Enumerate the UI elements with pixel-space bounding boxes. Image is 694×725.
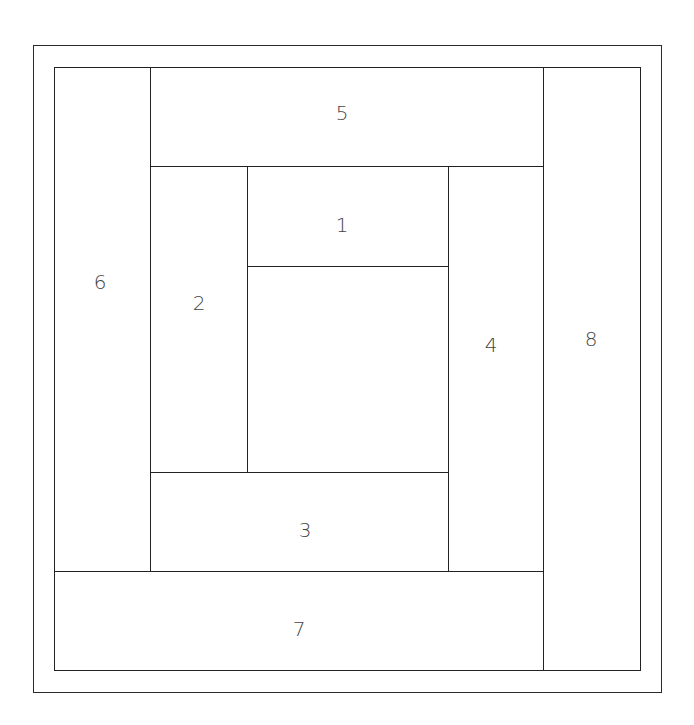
block-label-4: 4 — [485, 335, 498, 355]
block-label-7: 7 — [293, 619, 306, 639]
block-label-6: 6 — [94, 272, 107, 292]
block-2 — [150, 166, 248, 474]
quilt-block-diagram: 12345678 — [0, 0, 694, 725]
block-8 — [543, 67, 641, 671]
block-label-8: 8 — [585, 329, 598, 349]
block-label-5: 5 — [336, 103, 349, 123]
block-4 — [448, 166, 545, 573]
block-label-1: 1 — [336, 215, 349, 235]
block-center — [247, 266, 450, 474]
block-label-3: 3 — [299, 520, 312, 540]
block-label-2: 2 — [193, 293, 206, 313]
block-6 — [54, 67, 151, 573]
block-1 — [247, 166, 450, 267]
